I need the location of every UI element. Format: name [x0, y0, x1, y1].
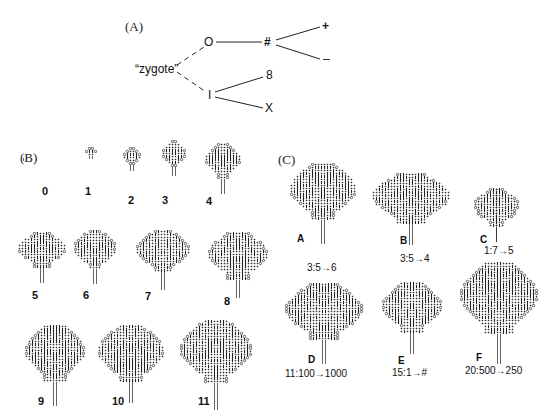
biomorph-letter: C [480, 235, 487, 245]
node-eight: 8 [266, 69, 273, 81]
biomorph-d [285, 283, 365, 369]
generation-number: 5 [32, 290, 38, 301]
biomorph-generation-0 [22, 147, 28, 165]
biomorph-b [372, 173, 450, 249]
biomorph-generation-9 [25, 325, 87, 411]
edge-zygote-o [177, 47, 204, 65]
edge-zygote-i [177, 72, 206, 92]
edge-i-eight [215, 77, 263, 92]
biomorph-formula: 3:5→4 [400, 254, 429, 264]
biomorph-generation-11 [180, 320, 254, 414]
biomorph-letter: E [398, 356, 405, 366]
edge-hash-minus [276, 45, 320, 59]
biomorph-generation-7 [136, 230, 190, 296]
generation-number: 7 [145, 291, 151, 302]
node-o: O [204, 36, 213, 48]
biomorph-letter: D [308, 355, 315, 365]
biomorph-formula: 3:5→6 [307, 263, 336, 273]
edge-i-x [215, 97, 263, 108]
node-plus: + [322, 20, 329, 32]
biomorph-generation-4 [205, 143, 241, 199]
generation-number: 9 [38, 396, 44, 407]
biomorph-generation-10 [98, 325, 164, 409]
biomorph-letter: F [476, 353, 482, 363]
biomorph-generation-3 [162, 140, 186, 182]
biomorph-formula: 15:1→# [392, 368, 427, 378]
biomorph-formula: 20:500→250 [465, 366, 522, 376]
biomorph-generation-6 [74, 230, 118, 290]
generation-number: 3 [162, 195, 168, 206]
tree-edges [0, 0, 552, 140]
generation-number: 0 [42, 186, 48, 197]
biomorph-generation-1 [85, 145, 97, 163]
generation-number: 1 [85, 186, 91, 197]
generation-number: 11 [198, 396, 210, 407]
generation-number: 10 [112, 396, 124, 407]
generation-number: 4 [206, 196, 212, 207]
biomorph-f [460, 262, 540, 368]
biomorph-generation-5 [18, 232, 66, 288]
node-minus: – [323, 53, 330, 65]
biomorph-letter: B [400, 236, 407, 246]
generation-number: 8 [224, 296, 230, 307]
biomorph-letter: A [297, 234, 304, 244]
generation-number: 6 [83, 290, 89, 301]
node-i: I [208, 89, 211, 101]
node-hash: # [264, 36, 271, 48]
node-x: X [265, 102, 273, 114]
biomorph-generation-8 [208, 232, 270, 302]
biomorph-formula: 1:7→5 [484, 246, 513, 256]
edge-hash-plus [276, 27, 320, 40]
generation-number: 2 [128, 195, 134, 206]
biomorph-e [382, 282, 444, 360]
node-zygote: “zygote” [135, 63, 178, 75]
biomorph-formula: 11:100→1000 [285, 369, 347, 379]
biomorph-generation-2 [123, 147, 141, 175]
